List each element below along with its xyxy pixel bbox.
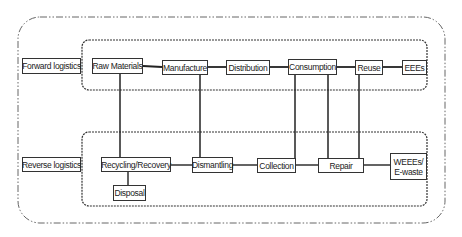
node-recycling-recovery: Recycling/Recovery [101,157,171,172]
reverse-logistics-label: Reverse logistics [22,157,81,172]
node-manufacture: Manufacture [162,60,208,75]
node-reuse: Reuse [355,60,383,75]
connector-layer [0,0,462,237]
weees-label-line1: WEEEs/ [394,157,424,167]
node-collection: Collection [257,158,296,173]
node-weees-ewaste: WEEEs/ E-waste [390,153,427,180]
weees-label-line2: E-waste [394,167,423,177]
node-distribution: Distribution [226,60,270,75]
node-disposal: Disposal [113,185,146,201]
node-eees: EEEs [402,60,427,75]
node-consumption: Consumption [288,59,337,75]
node-repair: Repair [318,158,364,173]
node-dismantling: Dismantling [192,157,233,173]
vertical-connectors [120,73,359,158]
forward-logistics-label: Forward logistics [22,58,81,74]
node-raw-materials: Raw Materials [92,58,143,74]
